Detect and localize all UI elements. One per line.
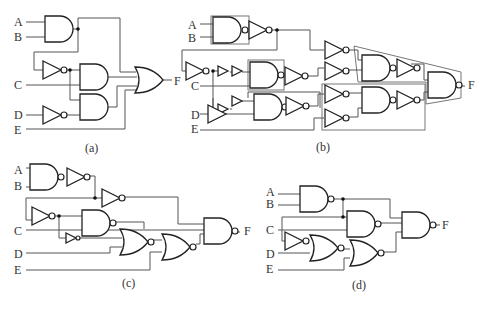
panel-d: A B C D E F (d) bbox=[266, 185, 449, 292]
caption-c: (c) bbox=[122, 276, 135, 290]
nand-gate bbox=[362, 87, 390, 113]
output-label-f: F bbox=[468, 78, 475, 92]
not-gate bbox=[325, 85, 343, 103]
not-gate bbox=[325, 109, 343, 127]
input-label-e: E bbox=[191, 122, 198, 136]
input-label-b: B bbox=[266, 197, 274, 211]
not-gate bbox=[186, 62, 204, 80]
input-label-e: E bbox=[266, 262, 273, 276]
input-label-d: D bbox=[191, 108, 200, 122]
input-label-c: C bbox=[191, 79, 199, 93]
input-label-a: A bbox=[14, 163, 23, 177]
not-gate-d bbox=[43, 106, 61, 124]
panel-a: A B C D E F (a) bbox=[14, 15, 181, 155]
output-label-f: F bbox=[442, 218, 449, 232]
nand-gate bbox=[82, 210, 110, 236]
nor-gate bbox=[162, 234, 190, 260]
input-label-d: D bbox=[14, 108, 23, 122]
nand-gate bbox=[254, 94, 282, 120]
not-gate bbox=[325, 62, 343, 80]
not-gate bbox=[397, 59, 415, 77]
nand-gate-output bbox=[204, 218, 232, 244]
logic-circuits-figure: A B C D E F (a) A B C D E F bbox=[0, 0, 488, 312]
nand-gate bbox=[362, 55, 390, 81]
input-label-e: E bbox=[14, 123, 21, 137]
panel-c: A B C D E F (c) bbox=[14, 163, 251, 290]
buffer-gate bbox=[232, 96, 242, 106]
input-label-c: C bbox=[266, 223, 274, 237]
not-gate bbox=[325, 41, 343, 59]
input-label-d: D bbox=[266, 247, 275, 261]
not-gate bbox=[102, 189, 120, 207]
or-gate-output bbox=[135, 67, 163, 93]
not-gate bbox=[32, 207, 50, 225]
input-label-c: C bbox=[14, 78, 22, 92]
not-gate bbox=[67, 168, 85, 186]
input-label-b: B bbox=[14, 30, 22, 44]
caption-a: (a) bbox=[85, 141, 98, 155]
and-gate bbox=[80, 64, 108, 90]
nor-gate bbox=[310, 235, 338, 261]
nor-gate bbox=[120, 229, 148, 255]
output-label-f: F bbox=[244, 224, 251, 238]
nand-gate bbox=[250, 62, 278, 88]
not-gate bbox=[249, 21, 267, 39]
output-label-f: F bbox=[174, 74, 181, 88]
and-gate bbox=[80, 94, 108, 120]
not-gate bbox=[43, 61, 61, 79]
not-gate bbox=[286, 97, 304, 115]
not-gate bbox=[285, 232, 303, 250]
buffer-gate bbox=[232, 66, 242, 76]
nand-gate-ab bbox=[213, 17, 241, 43]
nand-gate bbox=[347, 211, 375, 237]
caption-d: (d) bbox=[352, 278, 366, 292]
not-gate bbox=[285, 67, 303, 85]
and-gate-ab bbox=[45, 16, 73, 42]
nor-gate bbox=[350, 240, 378, 266]
nand-gate-ab bbox=[300, 186, 328, 212]
input-label-e: E bbox=[14, 263, 21, 277]
input-label-c: C bbox=[14, 224, 22, 238]
nand-gate-ab bbox=[30, 164, 58, 190]
panel-b: A B C D E F (b) bbox=[182, 16, 475, 154]
caption-b: (b) bbox=[316, 140, 330, 154]
buffer-gate bbox=[66, 233, 76, 243]
input-label-a: A bbox=[188, 18, 197, 32]
nand-gate-output bbox=[428, 72, 456, 98]
input-label-a: A bbox=[14, 15, 23, 29]
input-label-b: B bbox=[188, 31, 196, 45]
not-gate bbox=[397, 91, 415, 109]
nand-gate-output bbox=[402, 212, 430, 238]
buffer-gate bbox=[218, 66, 228, 76]
input-label-d: D bbox=[14, 247, 23, 261]
input-label-b: B bbox=[14, 179, 22, 193]
